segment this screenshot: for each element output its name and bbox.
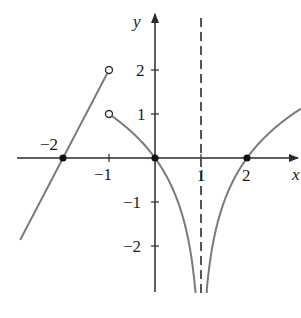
x-tick-label-neg1: −1 [94, 165, 112, 184]
right-curve-series [207, 109, 301, 293]
y-axis-label: y [131, 12, 141, 31]
filled-point [151, 154, 158, 161]
middle-curve-series [109, 114, 196, 293]
x-tick-label-1: 1 [197, 166, 206, 185]
y-tick-label-1: 1 [137, 105, 146, 124]
y-tick-label-neg2: −2 [123, 237, 141, 256]
filled-point [243, 154, 250, 161]
x-intercept-label-neg2: −2 [40, 135, 58, 154]
filled-point [59, 154, 66, 161]
x-tick-label-2: 2 [242, 166, 251, 185]
y-tick-label-neg1: −1 [123, 193, 141, 212]
y-tick-label-2: 2 [136, 61, 145, 80]
open-point [106, 111, 113, 118]
open-point [106, 67, 113, 74]
x-axis-label: x [291, 165, 300, 184]
function-graph: y x −1 1 2 −2 2 1 −1 −2 [0, 0, 301, 318]
